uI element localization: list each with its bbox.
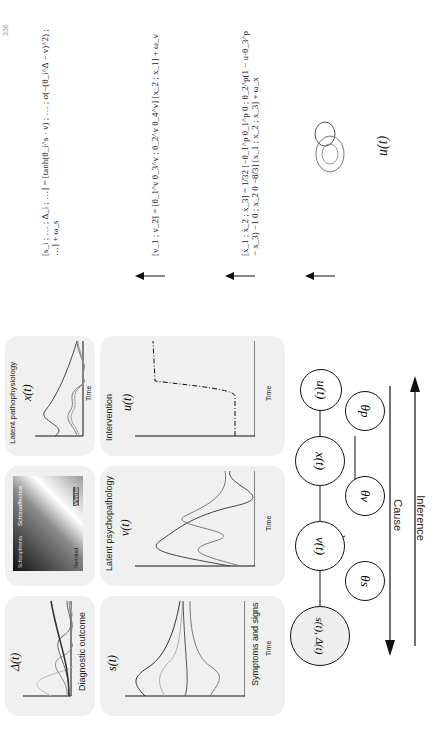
panel-psychopathology: Latent psychopathology v(t) Time <box>100 466 285 586</box>
intervention-chart <box>135 341 255 441</box>
pathophys-xlabel: Time <box>85 386 92 401</box>
page-number: 336 <box>2 24 9 36</box>
psycho-caption: Latent psychopathology <box>104 476 114 571</box>
psycho-xlabel: Time <box>265 516 272 531</box>
psycho-chart <box>135 471 255 571</box>
panel-diagnostic: Δ(t) Diagnostic outcome <box>5 596 95 716</box>
equation-arrows <box>120 256 340 296</box>
label-schizophrenia: Schizophrenia <box>17 536 23 568</box>
pathophys-title: x(t) <box>20 384 35 401</box>
diagnostic-chart <box>23 601 73 701</box>
node-theta-v: θv <box>345 476 385 516</box>
equation-psychopathology: [v_1 ; v_2] = [θ_1^v θ_3^v ; θ_2^v θ_4^v… <box>150 26 160 256</box>
inference-cause-arrows <box>380 346 440 676</box>
cause-label: Cause <box>392 499 404 531</box>
intervention-xlabel: Time <box>265 386 272 401</box>
symptoms-title: s(t) <box>105 655 120 671</box>
inference-label: Inference <box>415 495 427 541</box>
diagnostic-title: Δ(t) <box>8 653 23 671</box>
intervention-title: u(t) <box>120 394 135 411</box>
panel-statespace: Schizoaffective Schizophrenia Remitted A… <box>5 466 95 586</box>
symptoms-caption: Symptoms and signs <box>250 602 260 686</box>
label-remitted: Remitted <box>73 548 79 568</box>
node-theta-p: θp <box>345 391 385 431</box>
symptoms-xlabel: Time <box>265 641 272 656</box>
node-u: u(t) <box>300 369 342 411</box>
node-theta-s: θs <box>345 561 385 601</box>
node-v: v(t) <box>295 521 345 571</box>
diagnostic-caption: Diagnostic outcome <box>77 612 87 691</box>
panel-symptoms: s(t) Symptoms and signs Time <box>100 596 285 716</box>
label-affective: Affective <box>73 487 79 506</box>
symptoms-chart <box>125 601 245 701</box>
pathophys-caption: Latent pathophysiology <box>8 362 17 444</box>
panel-intervention: Intervention u(t) Time <box>100 336 285 456</box>
panel-pathophysiology: Latent pathophysiology x(t) Time <box>5 336 95 456</box>
equation-observation: [s_i ; … ; Δ_i ; …] = [tanh(θ_i^s · v) ;… <box>40 26 60 256</box>
intervention-caption: Intervention <box>104 394 114 441</box>
pathophys-chart <box>35 341 85 441</box>
figure-canvas: 336 Inference Cause s(t), Δ(t) v(t) x(t)… <box>0 0 441 736</box>
psycho-title: v(t) <box>118 519 133 536</box>
lorenz-attractor-icon <box>300 116 360 176</box>
node-observed: s(t), Δ(t) <box>290 606 350 666</box>
equation-pathophysiology: [ẋ_1 ; ẋ_2 ; ẋ_3] = 1/32 [−θ_1^p θ_1^p 0… <box>240 26 260 256</box>
node-x: x(t) <box>295 436 345 486</box>
label-schizoaffective: Schizoaffective <box>17 486 23 526</box>
equation-input: u(t) <box>375 136 391 156</box>
